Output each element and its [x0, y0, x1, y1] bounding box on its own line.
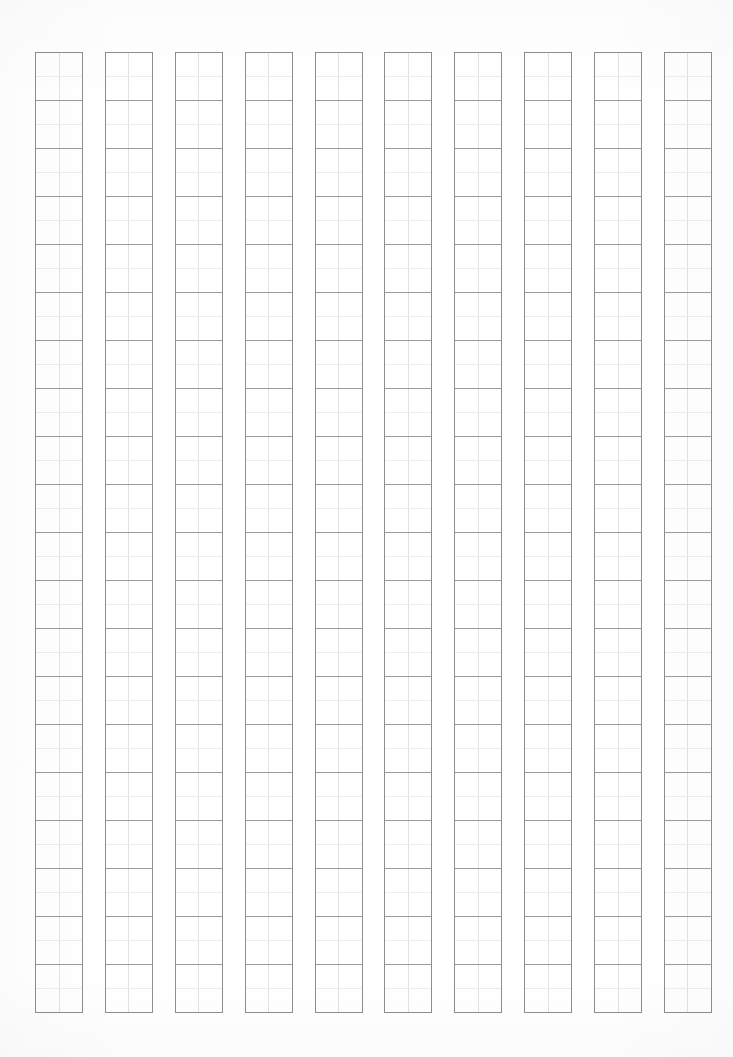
grid-cell[interactable]: [595, 101, 641, 149]
grid-cell[interactable]: [176, 869, 222, 917]
grid-cell[interactable]: [316, 533, 362, 581]
grid-cell[interactable]: [595, 965, 641, 1012]
grid-cell[interactable]: [246, 389, 292, 437]
grid-cell[interactable]: [595, 149, 641, 197]
grid-cell[interactable]: [665, 245, 711, 293]
grid-cell[interactable]: [525, 725, 571, 773]
grid-cell[interactable]: [176, 101, 222, 149]
grid-cell[interactable]: [246, 725, 292, 773]
grid-cell[interactable]: [176, 725, 222, 773]
grid-cell[interactable]: [176, 293, 222, 341]
grid-cell[interactable]: [246, 101, 292, 149]
grid-cell[interactable]: [525, 581, 571, 629]
grid-cell[interactable]: [525, 341, 571, 389]
grid-cell[interactable]: [246, 821, 292, 869]
grid-cell[interactable]: [665, 677, 711, 725]
grid-cell[interactable]: [665, 629, 711, 677]
grid-cell[interactable]: [595, 821, 641, 869]
grid-cell[interactable]: [665, 773, 711, 821]
grid-cell[interactable]: [176, 821, 222, 869]
grid-cell[interactable]: [525, 149, 571, 197]
grid-cell[interactable]: [595, 485, 641, 533]
grid-cell[interactable]: [455, 821, 501, 869]
grid-cell[interactable]: [665, 485, 711, 533]
grid-cell[interactable]: [595, 533, 641, 581]
grid-cell[interactable]: [525, 677, 571, 725]
grid-cell[interactable]: [246, 485, 292, 533]
grid-cell[interactable]: [455, 629, 501, 677]
grid-cell[interactable]: [525, 629, 571, 677]
grid-cell[interactable]: [455, 725, 501, 773]
grid-cell[interactable]: [385, 149, 431, 197]
grid-cell[interactable]: [455, 341, 501, 389]
grid-cell[interactable]: [665, 581, 711, 629]
grid-cell[interactable]: [455, 485, 501, 533]
grid-cell[interactable]: [36, 869, 82, 917]
grid-cell[interactable]: [106, 53, 152, 101]
grid-cell[interactable]: [316, 197, 362, 245]
grid-cell[interactable]: [316, 245, 362, 293]
grid-cell[interactable]: [106, 533, 152, 581]
grid-cell[interactable]: [246, 869, 292, 917]
grid-cell[interactable]: [316, 581, 362, 629]
grid-cell[interactable]: [36, 965, 82, 1012]
grid-cell[interactable]: [36, 101, 82, 149]
grid-cell[interactable]: [106, 821, 152, 869]
grid-cell[interactable]: [525, 101, 571, 149]
grid-cell[interactable]: [665, 101, 711, 149]
grid-cell[interactable]: [176, 53, 222, 101]
grid-cell[interactable]: [385, 197, 431, 245]
grid-cell[interactable]: [176, 629, 222, 677]
grid-cell[interactable]: [176, 965, 222, 1012]
grid-cell[interactable]: [246, 917, 292, 965]
grid-cell[interactable]: [455, 677, 501, 725]
grid-cell[interactable]: [455, 389, 501, 437]
grid-cell[interactable]: [316, 341, 362, 389]
grid-cell[interactable]: [176, 773, 222, 821]
grid-cell[interactable]: [455, 101, 501, 149]
grid-cell[interactable]: [525, 53, 571, 101]
grid-cell[interactable]: [106, 869, 152, 917]
grid-cell[interactable]: [246, 629, 292, 677]
grid-cell[interactable]: [525, 773, 571, 821]
grid-cell[interactable]: [455, 965, 501, 1012]
grid-cell[interactable]: [665, 197, 711, 245]
grid-column-7[interactable]: [454, 52, 502, 1013]
grid-cell[interactable]: [595, 629, 641, 677]
grid-cell[interactable]: [106, 773, 152, 821]
grid-cell[interactable]: [36, 389, 82, 437]
grid-cell[interactable]: [455, 773, 501, 821]
grid-cell[interactable]: [176, 917, 222, 965]
grid-cell[interactable]: [106, 485, 152, 533]
grid-cell[interactable]: [665, 341, 711, 389]
grid-cell[interactable]: [316, 677, 362, 725]
grid-cell[interactable]: [176, 149, 222, 197]
grid-column-10[interactable]: [664, 52, 712, 1013]
grid-cell[interactable]: [385, 869, 431, 917]
grid-cell[interactable]: [385, 533, 431, 581]
grid-column-3[interactable]: [175, 52, 223, 1013]
grid-cell[interactable]: [385, 437, 431, 485]
grid-cell[interactable]: [106, 965, 152, 1012]
grid-cell[interactable]: [595, 341, 641, 389]
grid-cell[interactable]: [316, 149, 362, 197]
grid-cell[interactable]: [665, 965, 711, 1012]
grid-cell[interactable]: [385, 581, 431, 629]
grid-cell[interactable]: [36, 821, 82, 869]
grid-cell[interactable]: [455, 437, 501, 485]
grid-cell[interactable]: [385, 245, 431, 293]
grid-cell[interactable]: [106, 389, 152, 437]
grid-cell[interactable]: [176, 437, 222, 485]
grid-cell[interactable]: [246, 533, 292, 581]
grid-cell[interactable]: [246, 437, 292, 485]
grid-cell[interactable]: [176, 245, 222, 293]
grid-column-4[interactable]: [245, 52, 293, 1013]
grid-cell[interactable]: [246, 965, 292, 1012]
grid-cell[interactable]: [665, 725, 711, 773]
grid-cell[interactable]: [525, 437, 571, 485]
grid-cell[interactable]: [665, 389, 711, 437]
grid-cell[interactable]: [455, 197, 501, 245]
grid-cell[interactable]: [385, 53, 431, 101]
grid-cell[interactable]: [385, 485, 431, 533]
grid-cell[interactable]: [36, 533, 82, 581]
